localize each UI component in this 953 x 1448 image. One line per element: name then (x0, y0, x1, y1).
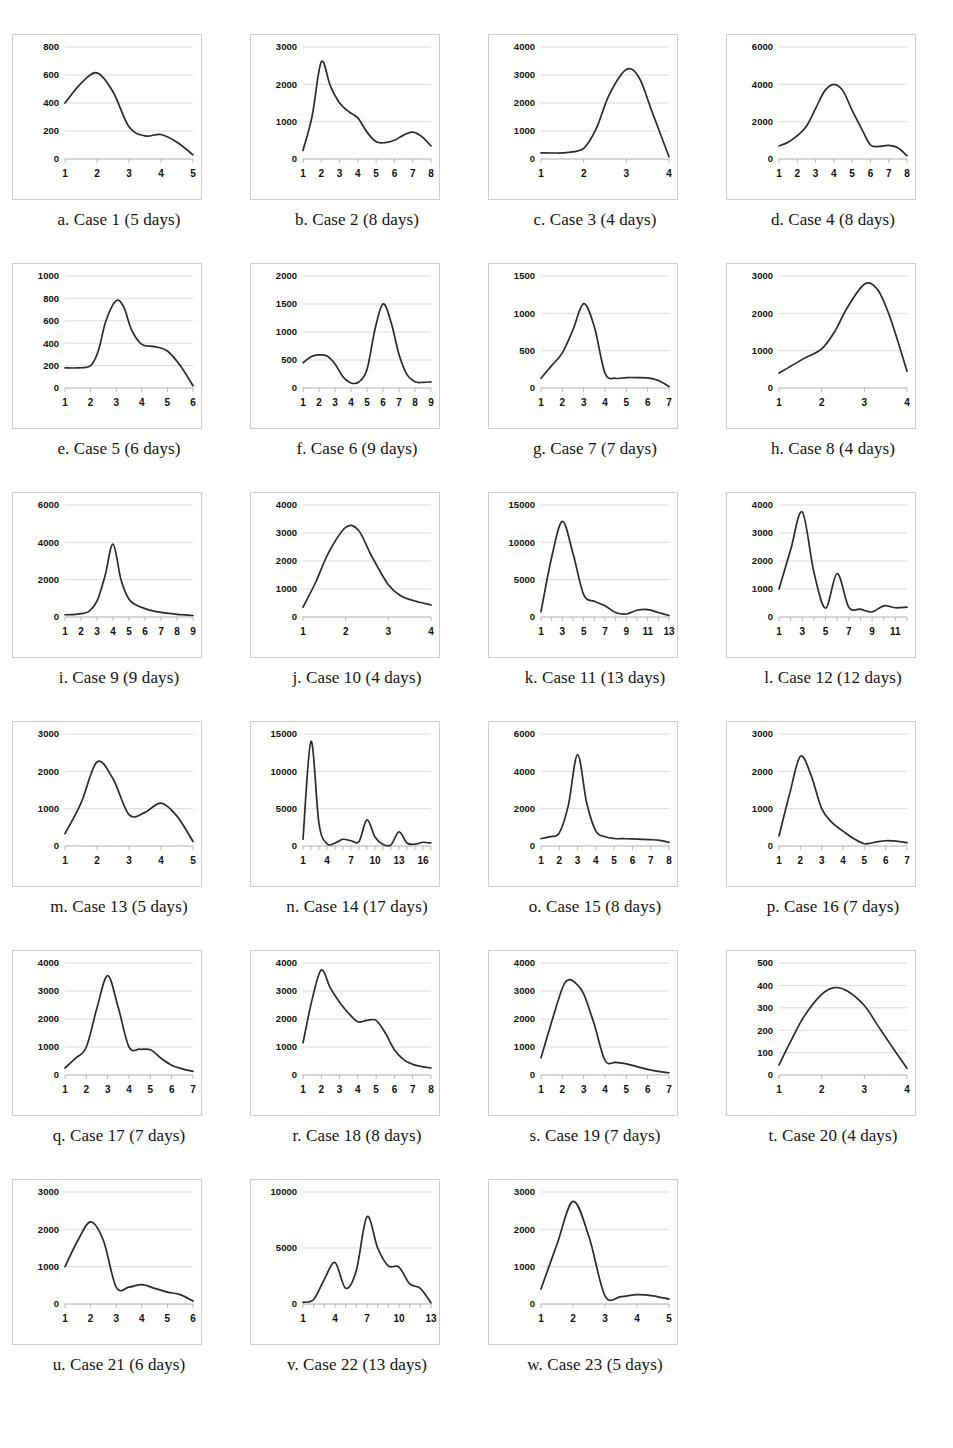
y-axis-tick-label: 0 (530, 1069, 535, 1080)
chart-cell: 020004000600012345678o. Case 15 (8 days) (476, 715, 714, 944)
y-axis-tick-label: 0 (530, 382, 535, 393)
x-axis-tick-label: 7 (410, 1084, 416, 1095)
y-axis-tick-label: 1500 (276, 298, 297, 309)
chart-panel: 0100020003000123456 (12, 1179, 202, 1345)
chart-caption: o. Case 15 (8 days) (476, 897, 714, 917)
x-axis-tick-label: 6 (392, 168, 398, 179)
data-series-line (541, 304, 669, 387)
data-series-line (779, 512, 907, 612)
x-axis-tick-label: 1 (300, 168, 306, 179)
x-axis-tick-label: 1 (300, 626, 306, 637)
x-axis-tick-label: 8 (904, 168, 910, 179)
chart-plot-area: 010002000300040001234567 (489, 951, 677, 1115)
y-axis-tick-label: 0 (54, 840, 59, 851)
y-axis-tick-label: 1000 (514, 125, 535, 136)
y-axis-tick-label: 4000 (752, 499, 773, 510)
chart-cell: 010002000300040001234567s. Case 19 (7 da… (476, 944, 714, 1173)
x-axis-tick-label: 3 (94, 626, 100, 637)
x-axis-tick-label: 7 (666, 1084, 672, 1095)
chart-plot-area: 02004006008001000123456 (13, 264, 201, 428)
x-axis-tick-label: 7 (396, 397, 402, 408)
chart-panel: 010002000300040001234567 (12, 950, 202, 1116)
y-axis-tick-label: 2000 (38, 1013, 59, 1024)
chart-panel: 0500100015001234567 (488, 263, 678, 429)
x-axis-tick-label: 7 (886, 168, 892, 179)
y-axis-tick-label: 0 (768, 382, 773, 393)
x-axis-tick-label: 3 (602, 1313, 608, 1324)
x-axis-tick-label: 3 (799, 626, 805, 637)
chart-caption: q. Case 17 (7 days) (0, 1126, 238, 1146)
chart-plot-area: 010002000300040001234 (489, 35, 677, 199)
chart-panel: 050001000015000147101316 (250, 721, 440, 887)
y-axis-tick-label: 1000 (514, 1261, 535, 1272)
chart-caption: w. Case 23 (5 days) (476, 1355, 714, 1375)
x-axis-tick-label: 1 (776, 168, 782, 179)
y-axis-tick-label: 800 (43, 293, 59, 304)
y-axis-tick-label: 200 (757, 1025, 773, 1036)
y-axis-tick-label: 1500 (514, 270, 535, 281)
y-axis-tick-label: 10000 (271, 1186, 297, 1197)
x-axis-tick-label: 8 (666, 855, 672, 866)
x-axis-tick-label: 1 (776, 1084, 782, 1095)
y-axis-tick-label: 3000 (752, 728, 773, 739)
x-axis-tick-label: 11 (642, 626, 653, 637)
chart-plot-area: 0500100015001234567 (489, 264, 677, 428)
chart-cell: 020040060080012345a. Case 1 (5 days) (0, 28, 238, 257)
y-axis-tick-label: 1000 (514, 1041, 535, 1052)
x-axis-tick-label: 2 (94, 168, 100, 179)
chart-caption: t. Case 20 (4 days) (714, 1126, 952, 1146)
x-axis-tick-label: 2 (88, 1313, 94, 1324)
chart-panel: 020004000600012345678 (488, 721, 678, 887)
chart-panel: 01002003004005001234 (726, 950, 916, 1116)
x-axis-tick-label: 1 (300, 1084, 306, 1095)
y-axis-tick-label: 400 (757, 980, 773, 991)
y-axis-tick-label: 3000 (38, 1186, 59, 1197)
chart-caption: m. Case 13 (5 days) (0, 897, 238, 917)
y-axis-tick-label: 0 (54, 153, 59, 164)
y-axis-tick-label: 0 (54, 382, 59, 393)
chart-plot-area: 010002000300012345678 (251, 35, 439, 199)
y-axis-tick-label: 10000 (509, 537, 535, 548)
y-axis-tick-label: 2000 (514, 1224, 535, 1235)
y-axis-tick-label: 600 (43, 315, 59, 326)
y-axis-tick-label: 1000 (276, 116, 297, 127)
y-axis-tick-label: 0 (292, 382, 297, 393)
chart-caption: j. Case 10 (4 days) (238, 668, 476, 688)
chart-cell: 0200040006000123456789i. Case 9 (9 days) (0, 486, 238, 715)
chart-cell: 010002000300040001234567q. Case 17 (7 da… (0, 944, 238, 1173)
y-axis-tick-label: 2000 (38, 1224, 59, 1235)
chart-cell: 010002000300012345678b. Case 2 (8 days) (238, 28, 476, 257)
x-axis-tick-label: 3 (813, 168, 819, 179)
x-axis-tick-label: 8 (428, 168, 434, 179)
x-axis-tick-label: 4 (593, 855, 599, 866)
y-axis-tick-label: 10000 (271, 766, 297, 777)
chart-caption: a. Case 1 (5 days) (0, 210, 238, 230)
data-series-line (541, 980, 669, 1073)
chart-panel: 0200040006000123456789 (12, 492, 202, 658)
y-axis-tick-label: 1000 (38, 1041, 59, 1052)
data-series-line (65, 976, 193, 1072)
x-axis-tick-label: 1 (62, 855, 68, 866)
x-axis-tick-label: 3 (126, 168, 132, 179)
x-axis-tick-label: 6 (190, 397, 196, 408)
y-axis-tick-label: 2000 (752, 308, 773, 319)
x-axis-tick-label: 5 (126, 626, 132, 637)
x-axis-tick-label: 4 (904, 1084, 910, 1095)
y-axis-tick-label: 3000 (514, 985, 535, 996)
data-series-line (303, 61, 431, 150)
chart-caption: n. Case 14 (17 days) (238, 897, 476, 917)
x-axis-tick-label: 2 (78, 626, 84, 637)
x-axis-tick-label: 1 (62, 626, 68, 637)
x-axis-tick-label: 7 (364, 1313, 370, 1324)
x-axis-tick-label: 4 (831, 168, 837, 179)
x-axis-tick-label: 5 (373, 1084, 379, 1095)
x-axis-tick-label: 1 (776, 397, 782, 408)
chart-cell: 010002000300040001234j. Case 10 (4 days) (238, 486, 476, 715)
chart-panel: 01000200030001234567 (726, 721, 916, 887)
y-axis-tick-label: 0 (54, 1069, 59, 1080)
y-axis-tick-label: 2000 (276, 270, 297, 281)
x-axis-tick-label: 4 (840, 855, 846, 866)
y-axis-tick-label: 1000 (752, 803, 773, 814)
x-axis-tick-label: 3 (113, 1313, 119, 1324)
chart-panel: 05000100001471013 (250, 1179, 440, 1345)
